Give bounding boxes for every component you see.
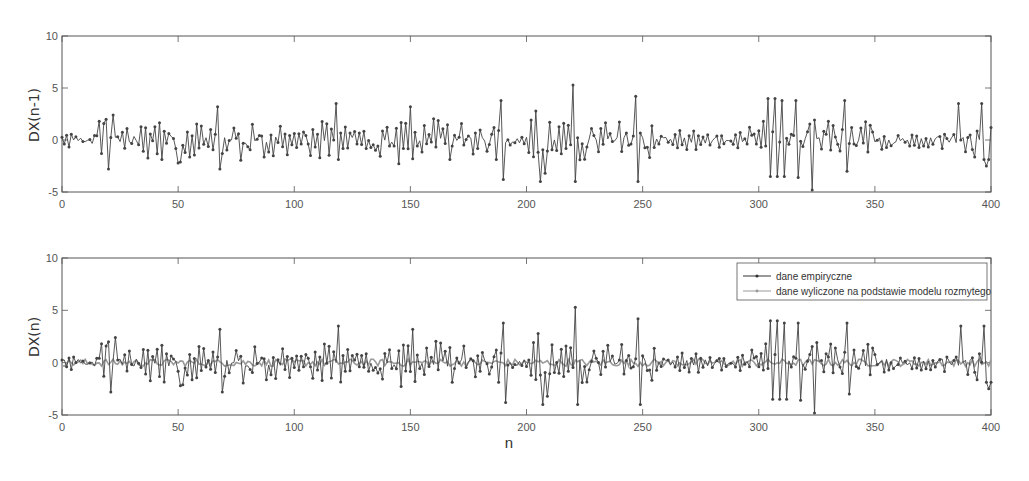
series-marker (569, 143, 572, 146)
series-marker (602, 143, 605, 146)
series-marker (695, 148, 698, 151)
series-marker (263, 156, 266, 159)
series-marker (548, 121, 551, 124)
series-marker (541, 403, 544, 406)
series-marker (825, 133, 828, 136)
series-marker (904, 141, 907, 144)
series-marker (311, 128, 314, 131)
series-marker (509, 143, 512, 146)
series-marker (146, 349, 149, 352)
series-marker (753, 132, 756, 135)
series-marker (797, 176, 800, 179)
x-tick-label: 250 (633, 198, 651, 210)
series-marker (335, 102, 338, 105)
series-marker (618, 121, 621, 124)
top-axes: 050100150200250300350400 -50510 DX(n-1) (26, 30, 1000, 210)
series-marker (455, 356, 458, 359)
series-marker (318, 355, 321, 358)
series-marker (397, 349, 400, 352)
series-marker (218, 328, 221, 331)
series-marker (876, 139, 879, 142)
series-marker (599, 127, 602, 130)
series-marker (632, 365, 635, 368)
series-marker (425, 347, 428, 350)
series-marker (929, 368, 932, 371)
series-marker (523, 142, 526, 145)
series-marker (537, 151, 540, 154)
series-marker (632, 135, 635, 138)
x-tick-label: 350 (866, 421, 884, 433)
series-marker (736, 146, 739, 149)
series-marker (256, 362, 259, 365)
series-marker (81, 359, 84, 362)
series-marker (286, 355, 289, 358)
series-marker (446, 123, 449, 126)
series-marker (372, 369, 375, 372)
series-marker (126, 127, 129, 130)
series-marker (346, 147, 349, 150)
series-marker (221, 152, 224, 155)
series-marker (209, 128, 212, 131)
series-marker (530, 374, 533, 377)
series-marker (551, 343, 554, 346)
series-marker (506, 364, 509, 367)
series-marker (760, 146, 763, 149)
series-marker (771, 130, 774, 133)
series-marker (676, 146, 679, 149)
series-marker (314, 351, 317, 354)
series-marker (941, 147, 944, 150)
series-marker (374, 149, 377, 152)
series-marker (137, 143, 140, 146)
series-marker (767, 367, 770, 370)
series-marker (376, 145, 379, 148)
series-marker (165, 142, 168, 145)
x-tick-label: 50 (172, 198, 184, 210)
series-marker (750, 348, 753, 351)
series-marker (530, 119, 533, 122)
series-marker (743, 363, 746, 366)
series-marker (393, 145, 396, 148)
series-marker (943, 370, 946, 373)
series-marker (755, 355, 758, 358)
series-marker (918, 146, 921, 149)
series-marker (653, 146, 656, 149)
series-marker (221, 391, 224, 394)
series-marker (279, 125, 282, 128)
series-marker (678, 369, 681, 372)
series-marker (966, 373, 969, 376)
series-marker (302, 130, 305, 133)
series-marker (774, 353, 777, 356)
y-tick-label: 0 (52, 134, 58, 146)
series-marker (235, 349, 238, 352)
series-marker (785, 398, 788, 401)
series-marker (239, 159, 242, 162)
series-marker (174, 147, 177, 150)
series-marker (597, 150, 600, 153)
series-marker (488, 143, 491, 146)
series-marker (790, 365, 793, 368)
series-marker (365, 352, 368, 355)
series-marker (544, 172, 547, 175)
bottom-x-axis-label: n (505, 434, 513, 451)
series-marker (576, 403, 579, 406)
x-tick-label: 200 (517, 421, 535, 433)
series-marker (969, 134, 972, 137)
series-marker (695, 352, 698, 355)
series-marker (604, 366, 607, 369)
series-marker (774, 97, 777, 100)
series-marker (293, 132, 296, 135)
series-marker (771, 398, 774, 401)
series-marker (409, 370, 412, 373)
series-marker (151, 139, 154, 142)
series-marker (718, 146, 721, 149)
x-tick-label: 300 (750, 421, 768, 433)
series-marker (572, 366, 575, 369)
series-marker (913, 144, 916, 147)
series-marker (156, 348, 159, 351)
series-marker (102, 375, 105, 378)
series-marker (871, 130, 874, 133)
series-marker (787, 143, 790, 146)
series-marker (460, 122, 463, 125)
series-marker (263, 357, 266, 360)
series-marker (762, 120, 765, 123)
